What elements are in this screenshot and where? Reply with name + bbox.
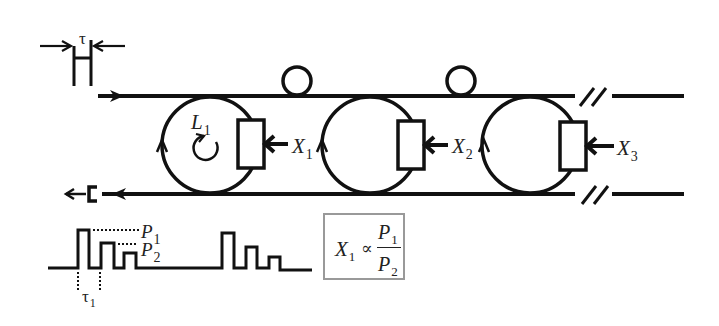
output-detector-icon xyxy=(66,187,97,201)
formula-denominator: P2 xyxy=(378,253,398,276)
output-pulse-trace xyxy=(48,230,312,270)
loop-label: L1 xyxy=(191,112,211,133)
pulse-width-label: τ xyxy=(79,30,86,47)
measurand-x1-label: X1 xyxy=(292,136,313,157)
sensing-element-2 xyxy=(398,121,424,169)
ring-3 xyxy=(479,97,614,193)
ring-resonator-diagram: τ L1 X1 X2 X3 P1 P2 τ1 X1 ∝ P1 P2 xyxy=(0,0,719,326)
formula-numerator: P1 xyxy=(378,221,398,244)
formula-lhs: X1 xyxy=(335,237,355,262)
measurand-x2-label: X2 xyxy=(452,136,473,157)
ring-2 xyxy=(317,97,448,193)
fraction-bar xyxy=(377,247,401,248)
sensing-element-1 xyxy=(238,120,264,168)
delay-tau1-label: τ1 xyxy=(82,288,96,305)
proportional-symbol: ∝ xyxy=(361,238,373,258)
peak-level-guides xyxy=(78,230,139,290)
measurand-x3-label: X3 xyxy=(617,138,638,159)
peak-p2-label: P2 xyxy=(141,240,161,259)
ratio-formula-box: X1 ∝ P1 P2 xyxy=(323,213,405,280)
small-ring-2 xyxy=(447,67,475,95)
sensing-element-3 xyxy=(560,122,586,170)
loop-rotation-icon xyxy=(194,136,218,160)
small-ring-1 xyxy=(283,67,311,95)
ring-1 xyxy=(157,97,288,193)
